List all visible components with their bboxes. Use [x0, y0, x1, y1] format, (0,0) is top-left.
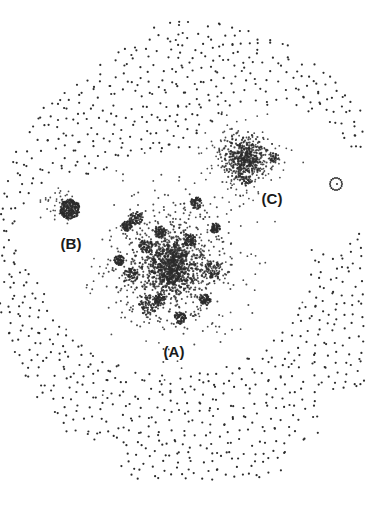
cluster-b-node — [62, 206, 64, 208]
ring-node — [36, 354, 38, 356]
cluster-c-node — [233, 134, 235, 136]
cluster-a-node — [166, 216, 168, 218]
cluster-c-node — [255, 146, 257, 148]
cluster-a-node — [230, 242, 232, 244]
cluster-a-node — [224, 333, 226, 335]
cluster-a-satellite-node — [199, 198, 201, 200]
ring-node — [231, 44, 233, 46]
cluster-a-node — [130, 263, 132, 265]
ring-node — [196, 98, 198, 100]
cluster-b-node — [72, 216, 74, 218]
ring-node — [353, 121, 355, 123]
cluster-a-node — [196, 297, 198, 299]
ring-node — [15, 151, 17, 153]
cluster-a-node — [177, 278, 179, 280]
ring-node — [209, 423, 211, 425]
cluster-a-node — [149, 253, 151, 255]
ring-node — [360, 360, 362, 362]
cluster-a-node — [181, 283, 183, 285]
ring-node — [308, 76, 310, 78]
ring-node — [300, 388, 302, 390]
ring-node — [148, 373, 150, 375]
cluster-c-node — [259, 161, 261, 163]
ring-node — [295, 104, 297, 106]
ring-node — [321, 381, 323, 383]
cluster-a-satellite-node — [191, 245, 193, 247]
cluster-c-node — [225, 137, 227, 139]
ring-node — [318, 277, 320, 279]
cluster-a-node — [136, 233, 138, 235]
ring-node — [340, 254, 342, 256]
ring-node — [101, 361, 103, 363]
ring-node — [72, 340, 74, 342]
ring-node — [237, 51, 239, 53]
ring-node — [87, 366, 89, 368]
cluster-a-satellite-node — [213, 225, 215, 227]
ring-node — [159, 102, 161, 104]
ring-node — [229, 104, 231, 106]
cluster-c-satellite-node — [245, 176, 247, 178]
ring-node — [52, 343, 54, 345]
cluster-a-node — [133, 251, 135, 253]
cluster-a-node — [183, 203, 185, 205]
ring-node — [6, 196, 8, 198]
cluster-c-node — [243, 142, 245, 144]
ring-node — [88, 162, 90, 164]
cluster-a-node — [230, 312, 232, 314]
ring-node — [107, 430, 109, 432]
cluster-a-node — [205, 179, 207, 181]
ring-node — [227, 442, 229, 444]
ring-node — [43, 293, 45, 295]
cluster-a-satellite-node — [217, 265, 219, 267]
ring-node — [71, 134, 73, 136]
cluster-a-node — [186, 263, 188, 265]
ring-node — [355, 286, 357, 288]
cluster-c-satellite-node — [249, 181, 251, 183]
cluster-b-node — [64, 202, 66, 204]
ring-node — [292, 414, 294, 416]
cluster-a-satellite-node — [123, 257, 125, 259]
cluster-c-node — [268, 173, 270, 175]
cluster-a-node — [192, 274, 194, 276]
cluster-a-node — [113, 259, 115, 261]
cluster-a-satellite-node — [151, 307, 153, 309]
cluster-c-node — [263, 160, 265, 162]
cluster-a-node — [194, 182, 196, 184]
cluster-a-node — [146, 223, 148, 225]
cluster-c-node — [241, 161, 243, 163]
small-ring-cluster-nodes — [329, 177, 343, 191]
cluster-a-node — [137, 204, 139, 206]
cluster-b-node — [48, 199, 50, 201]
cluster-c-node — [222, 197, 224, 199]
cluster-c-node — [219, 149, 221, 151]
cluster-c-node — [226, 140, 228, 142]
ring-node — [151, 416, 153, 418]
cluster-a-node — [141, 285, 143, 287]
cluster-a-satellite-node — [127, 228, 129, 230]
ring-node — [189, 146, 191, 148]
cluster-a-satellite-node — [148, 243, 150, 245]
ring-node — [289, 392, 291, 394]
ring-node — [49, 338, 51, 340]
ring-node — [281, 332, 283, 334]
cluster-a-satellite-node — [132, 221, 134, 223]
cluster-a-satellite-node — [213, 229, 215, 231]
ring-node — [242, 62, 244, 64]
ring-node — [332, 258, 334, 260]
ring-node — [182, 32, 184, 34]
ring-node — [157, 434, 159, 436]
cluster-c-node — [251, 174, 253, 176]
cluster-a-satellite-node — [126, 271, 128, 273]
ring-node — [249, 42, 251, 44]
ring-node — [178, 409, 180, 411]
ring-node — [110, 93, 112, 95]
ring-node — [198, 104, 200, 106]
ring-node — [302, 381, 304, 383]
cluster-a-satellite-node — [133, 280, 135, 282]
cluster-a-satellite-node — [218, 225, 220, 227]
cluster-a-node — [222, 315, 224, 317]
ring-node — [113, 124, 115, 126]
ring-node — [291, 375, 293, 377]
cluster-a-satellite-node — [157, 304, 159, 306]
cluster-a-node — [196, 248, 198, 250]
